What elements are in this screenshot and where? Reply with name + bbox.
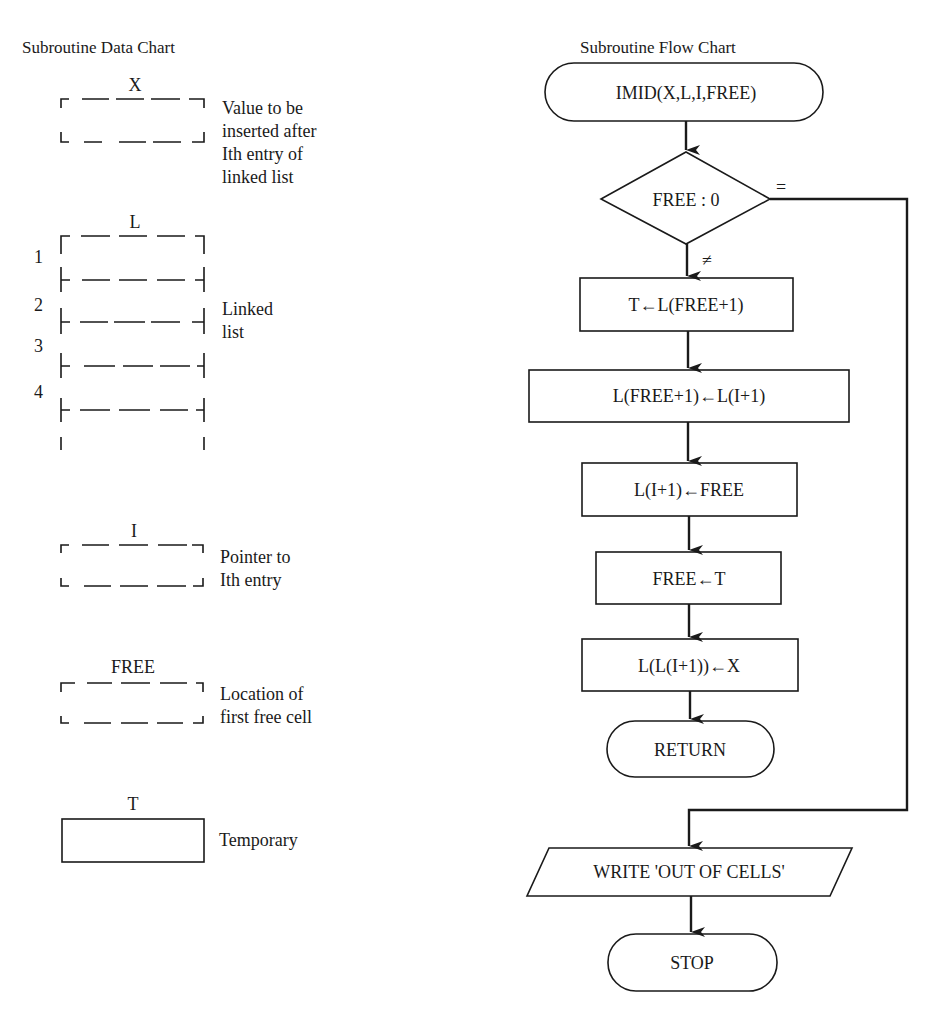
data-chart-title: Subroutine Data Chart [22, 38, 175, 57]
solid-box [62, 819, 204, 862]
data-item-l-name: L [130, 212, 141, 232]
data-item-l-desc-2: list [222, 322, 244, 342]
dashed-box-bottom [61, 716, 203, 723]
dashed-box-top [61, 545, 203, 553]
data-item-free-desc-2: first free cell [220, 707, 312, 727]
flow-node-step4: FREE←T [596, 552, 781, 604]
flow-chart: Subroutine Flow Chart IMID(X,L,I,FREE) F… [527, 38, 907, 991]
flow-node-step5: L(L(I+1))←X [582, 639, 798, 691]
flow-node-return-label: RETURN [654, 740, 726, 760]
data-item-free: FREE Location of first free cell [61, 657, 312, 727]
list-top [61, 236, 204, 254]
flow-node-write-label: WRITE 'OUT OF CELLS' [593, 862, 785, 882]
data-item-x-desc-1: Value to be [222, 98, 303, 118]
list-row-number-3: 3 [34, 336, 43, 356]
list-row-divider-2 [61, 308, 204, 334]
flow-node-step1: T←L(FREE+1) [580, 278, 793, 331]
diagram-canvas: Subroutine Data Chart X Value to be inse… [0, 0, 929, 1012]
flow-chart-title: Subroutine Flow Chart [580, 38, 736, 57]
data-item-x-desc-2: inserted after [222, 121, 316, 141]
flow-node-step3-label: L(I+1)←FREE [634, 480, 744, 501]
data-item-x-name: X [129, 75, 142, 95]
list-row-divider-1 [61, 267, 204, 292]
data-item-t-desc-1: Temporary [219, 830, 298, 850]
data-item-i-name: I [131, 521, 137, 541]
flow-node-step3: L(I+1)←FREE [582, 463, 797, 516]
flow-node-start-label: IMID(X,L,I,FREE) [616, 83, 756, 104]
data-item-t: T Temporary [62, 794, 298, 862]
dashed-box-top [61, 99, 204, 108]
flow-node-stop-label: STOP [670, 953, 714, 973]
flow-node-step2-label: L(FREE+1)←L(I+1) [613, 386, 765, 407]
flow-node-step4-label: FREE←T [652, 569, 725, 589]
data-item-x-desc-4: linked list [222, 167, 294, 187]
flow-node-step1-label: T←L(FREE+1) [628, 295, 743, 316]
list-continuation [61, 437, 204, 450]
flow-node-decision-label: FREE : 0 [652, 190, 719, 210]
list-row-number-4: 4 [34, 382, 43, 402]
list-row-number-2: 2 [34, 295, 43, 315]
data-chart: Subroutine Data Chart X Value to be inse… [22, 38, 316, 862]
list-row-number-1: 1 [34, 247, 43, 267]
data-item-l: L 1 2 3 4 Linked list [34, 212, 273, 450]
data-item-l-desc-1: Linked [222, 299, 273, 319]
dashed-box-bottom [61, 132, 204, 142]
flow-node-write: WRITE 'OUT OF CELLS' [527, 848, 852, 896]
data-item-i-desc-1: Pointer to [220, 547, 291, 567]
flow-node-step5-label: L(L(I+1))←X [638, 656, 740, 677]
data-item-free-desc-1: Location of [220, 684, 303, 704]
data-item-t-name: T [128, 794, 139, 814]
list-row-divider-4 [61, 398, 204, 422]
flow-node-step2: L(FREE+1)←L(I+1) [529, 370, 849, 422]
dashed-box-bottom [61, 578, 203, 586]
flow-node-decision: FREE : 0 = ≠ [601, 152, 786, 270]
flow-node-start: IMID(X,L,I,FREE) [545, 63, 823, 121]
data-item-x: X Value to be inserted after Ith entry o… [61, 75, 316, 187]
branch-not-equal-label: ≠ [702, 250, 712, 270]
list-row-divider-3 [61, 353, 204, 378]
flow-node-return: RETURN [607, 721, 774, 777]
data-item-free-name: FREE [111, 657, 155, 677]
data-item-x-desc-3: Ith entry of [222, 144, 303, 164]
data-item-i-desc-2: Ith entry [220, 570, 281, 590]
dashed-box-top [61, 683, 203, 692]
branch-equal-label: = [776, 177, 786, 197]
flow-node-stop: STOP [608, 934, 777, 991]
data-item-i: I Pointer to Ith entry [61, 521, 291, 590]
